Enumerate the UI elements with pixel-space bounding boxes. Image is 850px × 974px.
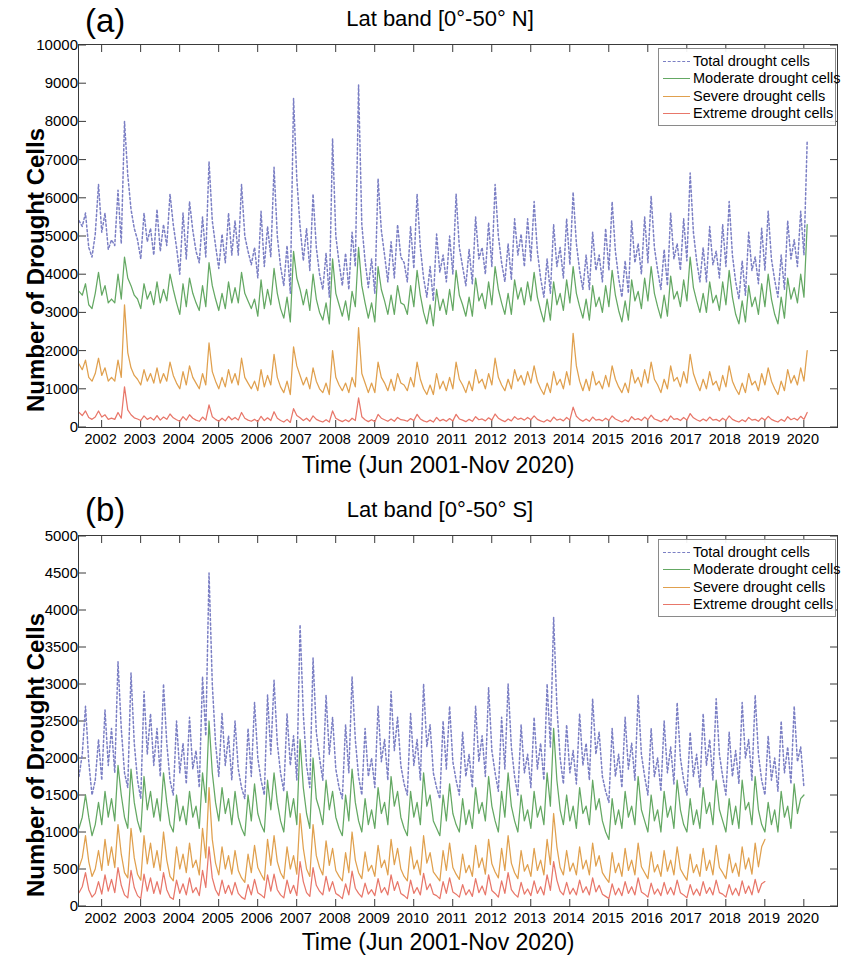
y-tick-label: 0: [0, 897, 83, 914]
legend-item-label: Severe drought cells: [693, 89, 825, 104]
x-tick-label: 2012: [475, 910, 507, 926]
series-line: [79, 387, 807, 423]
legend-item: Extreme drought cells: [663, 105, 830, 123]
legend-item: Moderate drought cells: [663, 561, 830, 579]
x-tick-label: 2018: [709, 910, 741, 926]
x-tick-label: 2012: [475, 431, 507, 447]
series-line: [79, 225, 807, 326]
legend-line-swatch: [663, 73, 690, 83]
y-tick-label: 1000: [0, 379, 83, 396]
x-tick-label: 2014: [553, 910, 585, 926]
x-tick-label: 2006: [241, 910, 273, 926]
legend-line-swatch: [663, 547, 690, 557]
x-tick-label: 2002: [84, 910, 116, 926]
x-tick-label: 2010: [397, 431, 429, 447]
legend-item-label: Severe drought cells: [693, 580, 825, 595]
legend-item: Total drought cells: [663, 543, 830, 561]
drought-cells-figure: (a) Lat band [0°-50° N] Number of Drough…: [0, 0, 850, 974]
panel-a-x-axis-label: Time (Jun 2001-Nov 2020): [228, 452, 648, 479]
legend-item: Total drought cells: [663, 52, 830, 70]
legend-line-swatch: [663, 582, 690, 592]
x-tick-label: 2009: [358, 431, 390, 447]
x-tick-label: 2007: [280, 910, 312, 926]
x-tick-label: 2008: [319, 910, 351, 926]
y-tick-label: 9000: [0, 74, 83, 91]
y-tick-label: 5000: [0, 527, 83, 544]
y-tick-label: 3000: [0, 675, 83, 692]
y-tick-label: 1000: [0, 823, 83, 840]
panel-b: (b) Lat band [0°-50° S] Number of Drough…: [0, 487, 850, 974]
x-tick-label: 2008: [319, 431, 351, 447]
x-tick-label: 2005: [202, 910, 234, 926]
y-tick-label: 7000: [0, 150, 83, 167]
x-tick-label: 2013: [514, 910, 546, 926]
y-tick-label: 3000: [0, 303, 83, 320]
x-tick-label: 2009: [358, 910, 390, 926]
legend-item-label: Extreme drought cells: [693, 106, 833, 121]
x-tick-label: 2002: [84, 431, 116, 447]
legend-line-swatch: [663, 599, 690, 609]
legend-item: Severe drought cells: [663, 578, 830, 596]
x-tick-label: 2011: [436, 431, 467, 447]
y-tick-label: 6000: [0, 188, 83, 205]
legend-item: Moderate drought cells: [663, 70, 830, 88]
x-tick-label: 2003: [123, 910, 155, 926]
y-tick-label: 4000: [0, 265, 83, 282]
x-tick-label: 2018: [709, 431, 741, 447]
y-tick-label: 4500: [0, 564, 83, 581]
x-tick-label: 2017: [670, 431, 702, 447]
x-tick-label: 2015: [592, 431, 624, 447]
x-tick-label: 2007: [280, 431, 312, 447]
x-tick-label: 2016: [631, 910, 663, 926]
y-tick-label: 2000: [0, 749, 83, 766]
x-tick-label: 2013: [514, 431, 546, 447]
x-tick-label: 2016: [631, 431, 663, 447]
legend-line-swatch: [663, 56, 690, 66]
legend-item-label: Moderate drought cells: [693, 562, 841, 577]
panel-b-title: Lat band [0°-50° S]: [230, 497, 650, 523]
x-tick-label: 2020: [787, 910, 819, 926]
legend-item-label: Extreme drought cells: [693, 597, 833, 612]
legend-line-swatch: [663, 108, 690, 118]
x-tick-label: 2005: [202, 431, 234, 447]
x-tick-label: 2004: [163, 910, 195, 926]
legend-item-label: Total drought cells: [693, 545, 810, 560]
legend-item-label: Total drought cells: [693, 54, 810, 69]
legend-item: Extreme drought cells: [663, 596, 830, 614]
panel-b-x-axis-label: Time (Jun 2001-Nov 2020): [228, 929, 648, 956]
legend-item-label: Moderate drought cells: [693, 71, 841, 86]
x-tick-label: 2014: [553, 431, 585, 447]
x-tick-label: 2020: [787, 431, 819, 447]
legend-line-swatch: [663, 91, 690, 101]
panel-b-legend: Total drought cellsModerate drought cell…: [658, 539, 836, 617]
legend-line-swatch: [663, 564, 690, 574]
x-tick-label: 2017: [670, 910, 702, 926]
y-tick-label: 8000: [0, 112, 83, 129]
series-line: [79, 721, 804, 839]
x-tick-label: 2011: [436, 910, 467, 926]
x-tick-label: 2019: [748, 431, 780, 447]
panel-a-title: Lat band [0°-50° N]: [230, 6, 650, 32]
panel-a-letter: (a): [85, 2, 125, 40]
series-line: [79, 305, 807, 395]
x-tick-label: 2015: [592, 910, 624, 926]
y-tick-label: 4000: [0, 601, 83, 618]
x-tick-label: 2003: [123, 431, 155, 447]
panel-b-letter: (b): [85, 491, 125, 529]
y-tick-label: 0: [0, 418, 83, 435]
y-tick-label: 3500: [0, 638, 83, 655]
x-tick-label: 2004: [163, 431, 195, 447]
legend-item: Severe drought cells: [663, 87, 830, 105]
y-tick-label: 500: [0, 860, 83, 877]
panel-a-legend: Total drought cellsModerate drought cell…: [658, 48, 836, 126]
x-tick-label: 2019: [748, 910, 780, 926]
y-tick-label: 2000: [0, 341, 83, 358]
x-tick-label: 2010: [397, 910, 429, 926]
y-tick-label: 10000: [0, 36, 83, 53]
x-tick-label: 2006: [241, 431, 273, 447]
y-tick-label: 1500: [0, 786, 83, 803]
panel-a: (a) Lat band [0°-50° N] Number of Drough…: [0, 0, 850, 487]
y-tick-label: 5000: [0, 227, 83, 244]
y-tick-label: 2500: [0, 712, 83, 729]
